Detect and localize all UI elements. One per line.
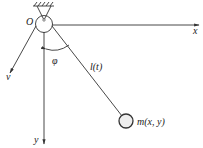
angle-label: φ — [52, 55, 58, 66]
variable-length-pendulum-diagram: O x y v φ l(t) m(x, y) — [0, 0, 203, 148]
length-label: l(t) — [90, 61, 103, 73]
y-axis-label: y — [33, 134, 39, 145]
angle-arc — [46, 45, 69, 50]
origin-label: O — [26, 16, 33, 27]
velocity-line — [10, 26, 36, 73]
pendulum-bob — [119, 114, 133, 128]
mass-label: m(x, y) — [137, 116, 165, 128]
pendulum-string — [52, 26, 122, 116]
velocity-label: v — [6, 71, 11, 82]
x-axis-label: x — [192, 25, 198, 36]
pulley — [36, 6, 53, 33]
ceiling-support — [33, 2, 54, 6]
